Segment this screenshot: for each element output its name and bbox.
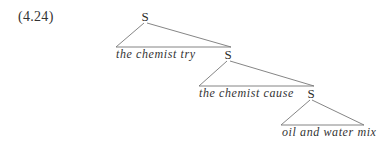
- tree-edge: [312, 100, 364, 125]
- node-label: S: [224, 47, 231, 62]
- syntax-tree: S the chemist try S the chemist cause S …: [0, 0, 386, 141]
- leaf-text: the chemist cause: [199, 86, 294, 100]
- tree-edge: [147, 23, 231, 47]
- tree-edge: [281, 100, 310, 125]
- tree-edge: [199, 61, 227, 86]
- tree-edge: [230, 61, 314, 86]
- tree-node-s2: S the chemist cause: [199, 47, 314, 100]
- node-label: S: [141, 9, 148, 24]
- leaf-text: oil and water mix: [282, 125, 377, 139]
- tree-node-s1: S the chemist try: [116, 9, 231, 61]
- tree-node-s3: S oil and water mix: [281, 86, 377, 139]
- leaf-text: the chemist try: [116, 47, 196, 61]
- node-label: S: [307, 86, 314, 101]
- tree-edge: [116, 23, 144, 47]
